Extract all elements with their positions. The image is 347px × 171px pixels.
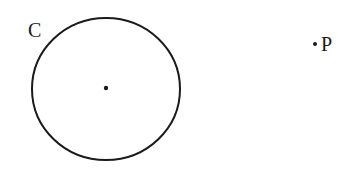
diagram-canvas: C P bbox=[0, 0, 347, 171]
circle-center-point bbox=[104, 86, 108, 90]
point-label: P bbox=[321, 33, 332, 55]
circle-label: C bbox=[28, 19, 41, 41]
point-p-dot bbox=[313, 42, 317, 46]
